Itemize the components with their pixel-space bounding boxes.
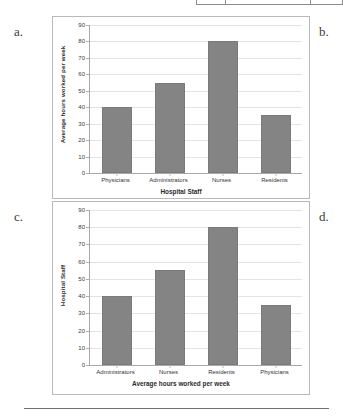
y-tick-label: 20 xyxy=(78,137,85,143)
bar xyxy=(208,227,238,365)
bar-chart-c: Hospital Staff 9080706050403020100 Admin… xyxy=(53,202,309,394)
y-tick-label: 50 xyxy=(78,88,85,94)
x-category-label: Physicians xyxy=(89,177,142,183)
x-tick-mark xyxy=(169,173,170,176)
y-tick-label: 40 xyxy=(78,293,85,299)
panel-label-a: a. xyxy=(14,24,23,40)
bar-column xyxy=(143,25,196,173)
x-tick-mark xyxy=(275,173,276,176)
x-axis-title-a: Hospital Staff xyxy=(53,188,309,195)
table-column-divider xyxy=(310,0,311,4)
x-tick-mark xyxy=(169,365,170,368)
bar xyxy=(102,296,132,365)
y-axis-title-c: Hospital Staff xyxy=(57,202,69,368)
y-tick-label: 50 xyxy=(78,276,85,282)
bar xyxy=(208,41,238,173)
chart-panel-a: Average hours worked per week 9080706050… xyxy=(52,16,310,199)
panel-label-b: b. xyxy=(319,24,329,40)
plot-area-c xyxy=(89,210,302,366)
bar-series-c xyxy=(90,210,302,365)
y-tick-label: 70 xyxy=(78,241,85,247)
bar xyxy=(261,115,291,173)
x-category-label: Residents xyxy=(195,369,248,375)
bar-series-a xyxy=(90,25,302,173)
y-tick-label: 40 xyxy=(78,104,85,110)
bar xyxy=(155,270,185,365)
y-tick-label: 90 xyxy=(78,22,85,28)
bar xyxy=(155,83,185,173)
bar-column xyxy=(196,210,249,365)
y-tick-label: 10 xyxy=(78,154,85,160)
plot-area-a xyxy=(89,25,302,174)
y-tick-label: 60 xyxy=(78,71,85,77)
x-category-label: Nurses xyxy=(142,369,195,375)
y-tick-label: 30 xyxy=(78,121,85,127)
chart-panel-c: Hospital Staff 9080706050403020100 Admin… xyxy=(52,201,310,395)
y-axis-ticks-a: 9080706050403020100 xyxy=(70,25,88,173)
x-axis-category-labels-c: AdministratorsNursesResidentsPhysicians xyxy=(89,369,301,375)
y-tick-label: 70 xyxy=(78,55,85,61)
y-tick-label: 0 xyxy=(82,170,85,176)
bar-column xyxy=(90,25,143,173)
y-tick-label: 60 xyxy=(78,259,85,265)
y-axis-title-a: Average hours worked per week xyxy=(57,17,69,172)
y-tick-label: 10 xyxy=(78,345,85,351)
x-category-label: Administrators xyxy=(89,369,142,375)
y-tick-label: 0 xyxy=(82,362,85,368)
bar-column xyxy=(143,210,196,365)
cut-off-table-stub xyxy=(196,0,343,5)
bar-column xyxy=(196,25,249,173)
x-category-label: Nurses xyxy=(195,177,248,183)
x-tick-mark xyxy=(275,365,276,368)
bar-column xyxy=(90,210,143,365)
x-category-label: Administrators xyxy=(142,177,195,183)
x-tick-mark xyxy=(116,365,117,368)
x-tick-mark xyxy=(222,173,223,176)
y-tick-label: 20 xyxy=(78,328,85,334)
bar-column xyxy=(249,25,302,173)
x-tick-mark xyxy=(116,173,117,176)
x-tick-mark xyxy=(222,365,223,368)
bar-column xyxy=(249,210,302,365)
y-tick-label: 30 xyxy=(78,310,85,316)
y-tick-label: 80 xyxy=(78,38,85,44)
table-column-divider xyxy=(225,0,226,4)
x-axis-title-c: Average hours worked per week xyxy=(53,380,309,387)
x-category-label: Residents xyxy=(248,177,301,183)
panel-label-d: d. xyxy=(319,209,329,225)
bar xyxy=(261,305,291,365)
bar-chart-a: Average hours worked per week 9080706050… xyxy=(53,17,309,198)
panel-label-c: c. xyxy=(14,209,23,225)
y-axis-ticks-c: 9080706050403020100 xyxy=(70,210,88,365)
footer-rule xyxy=(24,408,329,409)
x-category-label: Physicians xyxy=(248,369,301,375)
y-tick-label: 80 xyxy=(78,224,85,230)
y-tick-label: 90 xyxy=(78,207,85,213)
x-axis-category-labels-a: PhysiciansAdministratorsNursesResidents xyxy=(89,177,301,183)
bar xyxy=(102,107,132,173)
